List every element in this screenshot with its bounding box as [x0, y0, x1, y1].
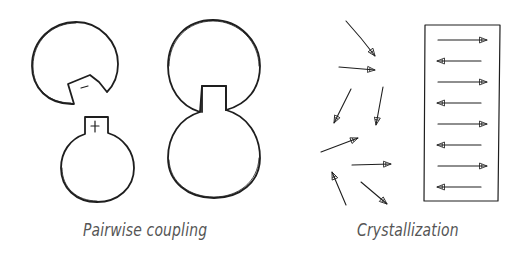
minus-sign — [81, 86, 88, 88]
random-arrow — [346, 21, 375, 56]
hatched-shape-coupled — [168, 20, 260, 112]
random-arrow — [352, 164, 391, 165]
caption-pairwise-coupling: Pairwise coupling — [83, 220, 207, 240]
random-arrow — [321, 138, 358, 152]
random-arrow — [361, 182, 387, 204]
random-arrows — [321, 21, 391, 205]
aligned-arrows-box — [424, 25, 500, 201]
container-box — [424, 25, 500, 201]
caption-crystallization: Crystallization — [357, 220, 459, 240]
plain-shape-separated — [61, 117, 134, 202]
random-arrow — [376, 87, 383, 125]
pairwise-coupling-panel — [32, 20, 260, 202]
plus-sign — [91, 121, 99, 132]
random-arrow — [334, 89, 351, 123]
random-arrow — [339, 67, 375, 70]
knob-inserted — [202, 86, 226, 112]
random-arrow — [332, 172, 346, 205]
plain-shape-coupled — [168, 110, 260, 198]
crystallization-panel — [321, 21, 500, 205]
hatched-shape-separated — [32, 22, 118, 104]
